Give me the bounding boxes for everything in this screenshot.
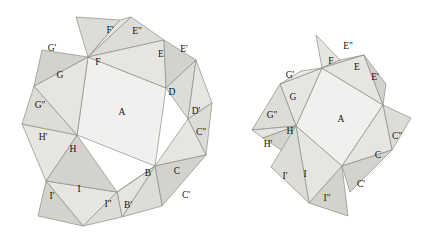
label-left-Bp: B' <box>124 200 132 210</box>
label-left-Fp: F' <box>107 25 114 35</box>
label-left-Hp: H' <box>39 132 48 142</box>
label-right-I: I <box>303 169 306 179</box>
label-left-B: B <box>145 168 151 178</box>
label-left-Cdq: C" <box>196 127 206 137</box>
label-left-E: E <box>158 49 164 59</box>
label-right-Ip: I' <box>283 171 288 181</box>
label-right-Cdq: C" <box>392 131 402 141</box>
label-right-E: E <box>354 62 360 72</box>
dissection-diagram: A B B' C C' C" D D' E E' E" F F' G G' G"… <box>0 0 432 238</box>
label-left-Gdq: G" <box>35 100 46 110</box>
label-left-F: F <box>95 57 100 67</box>
label-left-Dp: D' <box>192 106 201 116</box>
label-left-Cp: C' <box>182 190 190 200</box>
label-right-Hp: H' <box>264 139 273 149</box>
label-right-F: F <box>328 56 333 66</box>
label-left-G: G <box>57 70 64 80</box>
label-left-H: H <box>70 144 77 154</box>
label-right-Gp: G' <box>286 70 295 80</box>
label-right-C: C <box>375 150 381 160</box>
label-left-Gp: G' <box>48 43 57 53</box>
figure-board: A B B' C C' C" D D' E E' E" F F' G G' G"… <box>0 0 432 238</box>
left-figure-folded-nonagon: A B B' C C' C" D D' E E' E" F F' G G' G"… <box>22 17 212 226</box>
label-left-Edq: E" <box>132 26 142 36</box>
label-right-G: G <box>290 92 297 102</box>
label-right-Cp: C' <box>357 179 365 189</box>
label-left-C: C <box>174 166 180 176</box>
label-left-D: D <box>169 87 176 97</box>
label-right-Gdq: G" <box>267 110 278 120</box>
label-left-Ep: E' <box>180 44 188 54</box>
label-right-A: A <box>338 114 345 124</box>
label-left-A: A <box>119 107 126 117</box>
right-figure-unfolded-net: A C C' C" E E' E" F G G' G" H H' I I' I" <box>252 35 411 216</box>
label-left-I: I <box>77 184 80 194</box>
label-left-Idq: I" <box>104 199 111 209</box>
label-right-H: H <box>287 126 294 136</box>
label-right-Idq: I" <box>323 193 330 203</box>
label-right-Edq: E" <box>343 41 353 51</box>
label-left-Ip: I' <box>50 191 55 201</box>
label-right-Ep: E' <box>371 72 379 82</box>
